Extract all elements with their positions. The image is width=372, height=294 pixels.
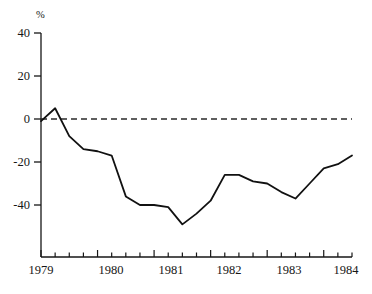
x-tick-label-1982: 1982 — [217, 263, 242, 277]
x-tick-label-1983: 1983 — [277, 263, 302, 277]
x-axis-ticks — [41, 250, 352, 257]
x-axis-tick-labels: 1979 1980 1981 1982 1983 1984 — [29, 263, 360, 277]
chart-container: % 40 20 0 -20 -40 1979 1980 1981 19 — [0, 0, 372, 294]
y-axis-ticks — [34, 33, 41, 205]
x-tick-label-1980: 1980 — [99, 263, 124, 277]
x-tick-label-1984: 1984 — [334, 263, 360, 277]
y-axis-unit-label: % — [36, 9, 45, 20]
line-chart-svg: % 40 20 0 -20 -40 1979 1980 1981 19 — [0, 0, 372, 294]
y-axis-tick-labels: 40 20 0 -20 -40 — [13, 26, 30, 212]
data-series-line — [41, 108, 352, 224]
y-tick-label-20: 20 — [18, 69, 31, 83]
y-tick-label-minus40: -40 — [13, 198, 30, 212]
y-tick-label-40: 40 — [18, 26, 31, 40]
y-tick-label-minus20: -20 — [13, 155, 30, 169]
y-tick-label-0: 0 — [24, 112, 30, 126]
x-tick-label-1981: 1981 — [159, 263, 184, 277]
x-tick-label-1979: 1979 — [29, 263, 54, 277]
